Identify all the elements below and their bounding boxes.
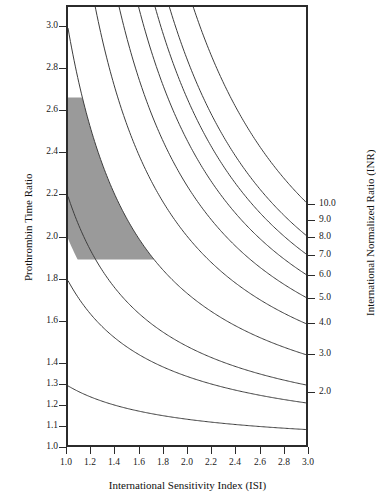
tick-mark	[308, 204, 315, 205]
inr-curve	[68, 386, 308, 430]
plot-area	[66, 5, 308, 447]
axis-tick-label: 4.0	[319, 318, 355, 328]
tick-mark	[139, 447, 140, 454]
tick-mark	[284, 447, 285, 454]
tick-mark	[260, 447, 261, 454]
tick-mark	[59, 194, 66, 195]
tick-mark	[59, 405, 66, 406]
axis-tick-label: 7.0	[319, 250, 355, 260]
axis-tick-label: 2.6	[14, 105, 58, 115]
tick-mark	[308, 275, 315, 276]
axis-tick-label: 2.2	[14, 189, 58, 199]
tick-mark	[59, 110, 66, 111]
tick-mark	[59, 321, 66, 322]
axis-tick-label: 2.4	[14, 147, 58, 157]
axis-tick-label: 2.0	[14, 232, 58, 242]
axis-tick-label: 3.0	[14, 21, 58, 31]
tick-mark	[59, 426, 66, 427]
axis-tick-label: 1.8	[14, 274, 58, 284]
tick-mark	[308, 323, 315, 324]
axis-tick-label: 3.0	[292, 458, 324, 468]
axis-tick-label: 6.0	[319, 270, 355, 280]
axis-tick-label: 1.0	[14, 442, 58, 452]
curve-layer	[68, 7, 308, 447]
tick-mark	[308, 392, 315, 393]
tick-mark	[59, 279, 66, 280]
inr-curve	[68, 281, 308, 404]
axis-tick-label: 1.3	[14, 379, 58, 389]
axis-tick-label: 1.6	[14, 316, 58, 326]
y-axis-left-title: Prothrombin Time Ratio	[22, 173, 34, 281]
tick-mark	[59, 384, 66, 385]
inr-curve	[136, 7, 308, 257]
axis-tick-label: 8.0	[319, 232, 355, 242]
tick-mark	[66, 447, 67, 454]
tick-mark	[308, 447, 309, 454]
tick-mark	[211, 447, 212, 454]
y-axis-right-title: International Normalized Ratio (INR)	[364, 150, 376, 316]
axis-tick-label: 9.0	[319, 215, 355, 225]
tick-mark	[308, 220, 315, 221]
tick-mark	[187, 447, 188, 454]
tick-mark	[114, 447, 115, 454]
tick-mark	[59, 152, 66, 153]
axis-tick-label: 2.0	[319, 387, 355, 397]
tick-mark	[308, 255, 315, 256]
axis-tick-label: 10.0	[319, 199, 355, 209]
axis-tick-label: 3.0	[319, 349, 355, 359]
therapeutic-range-band	[68, 98, 154, 260]
tick-mark	[235, 447, 236, 454]
tick-mark	[308, 354, 315, 355]
inr-curve	[121, 7, 308, 277]
axis-tick-label: 2.8	[14, 63, 58, 73]
tick-mark	[59, 26, 66, 27]
axis-tick-label: 1.2	[14, 400, 58, 410]
tick-mark	[59, 68, 66, 69]
tick-mark	[59, 237, 66, 238]
axis-tick-label: 1.1	[14, 421, 58, 431]
tick-mark	[90, 447, 91, 454]
tick-mark	[308, 298, 315, 299]
tick-mark	[59, 363, 66, 364]
tick-mark	[59, 447, 66, 448]
axis-tick-label: 1.4	[14, 358, 58, 368]
tick-mark	[163, 447, 164, 454]
tick-mark	[308, 237, 315, 238]
x-axis-title: International Sensitivity Index (ISI)	[0, 479, 375, 491]
axis-tick-label: 5.0	[319, 293, 355, 303]
